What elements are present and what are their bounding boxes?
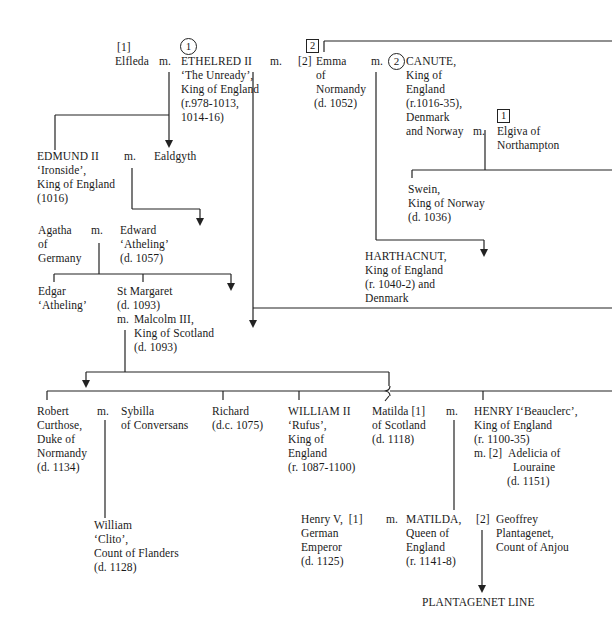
marriage-marker: m. <box>473 125 485 139</box>
name-line: Queen of <box>406 527 449 541</box>
name-line: of <box>316 69 326 83</box>
name-line: Agatha <box>38 224 72 238</box>
plantagenet-line-label: PLANTAGENET LINE <box>422 596 535 610</box>
name-line: King of <box>288 433 324 447</box>
marriage-marker: m. <box>371 55 383 69</box>
name-line: King of England <box>181 83 259 97</box>
name-line: Elgiva of <box>497 125 540 139</box>
name-line: of <box>38 238 48 252</box>
name-line: Henry V, [1] <box>301 513 363 527</box>
name-line: Denmark <box>406 111 450 125</box>
name-line: Adelicia of <box>508 447 561 461</box>
name-line: (d. 1093) <box>134 341 177 355</box>
name-line: (d. 1093) <box>117 299 160 313</box>
name-line: St Margaret <box>117 285 173 299</box>
name-line: (d. 1036) <box>408 211 451 225</box>
marriage-marker: m. <box>159 55 171 69</box>
marriage-marker: m. <box>386 513 398 527</box>
name-line: of Scotland <box>372 419 426 433</box>
name-line: King of Norway <box>408 197 485 211</box>
name-line: (1016) <box>37 192 68 206</box>
name-line: (r. 1040-2) and <box>365 278 435 292</box>
name-line: Plantagenet, <box>496 527 554 541</box>
name-line: Count of Anjou <box>496 541 569 555</box>
name-line: (r. 1087-1100) <box>288 461 355 475</box>
name-line: Edgar <box>38 285 66 299</box>
name-line: Sybilla <box>121 405 154 419</box>
name-line: (r. 1100-35) <box>474 433 530 447</box>
name-line: Matilda [1] <box>372 405 425 419</box>
name-line: Germany <box>38 252 82 266</box>
name-line: Richard <box>212 405 249 419</box>
marriage-marker: m. <box>117 313 129 327</box>
name-line: Normandy <box>37 447 87 461</box>
name-line: and Norway <box>406 125 464 139</box>
name-line: Geoffrey <box>496 513 538 527</box>
name-line: England <box>288 447 327 461</box>
name-line: Emperor <box>301 541 342 555</box>
name-line: King of England <box>365 264 443 278</box>
elfleda-name: Elfleda <box>115 55 149 69</box>
marriage-marker: m. <box>270 55 282 69</box>
name-line: WILLIAM II <box>288 405 351 419</box>
emma-marker: [2] <box>298 55 312 69</box>
elfleda-marker: [1] <box>117 41 131 55</box>
name-line: (d. 1134) <box>37 461 80 475</box>
marriage-marker: m. <box>124 150 136 164</box>
name-line: Louraine <box>513 461 555 475</box>
name-line: (d. 1125) <box>301 555 344 569</box>
name-line: (d. 1118) <box>372 433 414 447</box>
name-line: Robert <box>37 405 69 419</box>
name-line: ‘The Unready’, <box>181 69 253 83</box>
name-line: HARTHACNUT, <box>365 250 447 264</box>
name-line: (r.1016-35), <box>406 97 462 111</box>
name-line: (d. 1151) <box>507 475 550 489</box>
circle-number-icon: 1 <box>180 38 197 55</box>
name-line: Normandy <box>316 83 366 97</box>
name-line: Duke of <box>37 433 75 447</box>
name-line: (r.978-1013, <box>181 97 239 111</box>
name-line: (d. 1128) <box>94 561 137 575</box>
name-line: ‘Ironside’, <box>37 164 86 178</box>
name-line: Swein, <box>408 183 440 197</box>
circle-number-icon: 2 <box>388 53 405 70</box>
name-line: King of <box>406 69 442 83</box>
name-line: King of England <box>37 178 115 192</box>
marriage-marker: m. <box>97 405 109 419</box>
name-line: King of England <box>474 419 552 433</box>
box-number-icon: 2 <box>306 39 319 53</box>
name-line: HENRY I‘Beauclerc’, <box>474 405 578 419</box>
name-line: (d. 1057) <box>120 252 163 266</box>
name-line: (d. 1052) <box>314 97 357 111</box>
name-line: German <box>301 527 339 541</box>
name-line: (d.c. 1075) <box>212 419 263 433</box>
name-line: 1014-16) <box>181 111 224 125</box>
name-line: Curthose, <box>37 419 82 433</box>
name-line: Emma <box>316 55 346 69</box>
marriage-marker: m. <box>91 224 103 238</box>
name-line: Malcolm III, <box>134 313 194 327</box>
marriage-marker: m. <box>446 405 458 419</box>
name-line: Edward <box>120 224 156 238</box>
name-line: ‘Clito’, <box>94 533 128 547</box>
person-ealdgyth[interactable]: Ealdgyth <box>154 150 196 164</box>
name-line: Northampton <box>497 139 559 153</box>
name-line: (r. 1141-8) <box>406 555 456 569</box>
box-number-icon: 1 <box>497 109 510 123</box>
name-line: William <box>94 519 132 533</box>
name-line: King of Scotland <box>134 327 214 341</box>
name-line: ‘Rufus’, <box>288 419 327 433</box>
name-line: Count of Flanders <box>94 547 179 561</box>
name-line: ‘Atheling’ <box>120 238 169 252</box>
name-line: England <box>406 83 445 97</box>
name-line: ETHELRED II <box>181 55 252 69</box>
name-line: Denmark <box>365 292 409 306</box>
marriage-marker: m. [2] <box>474 447 502 461</box>
name-line: England <box>406 541 445 555</box>
name-line: ‘Atheling’ <box>38 299 87 313</box>
name-line: of Conversans <box>121 419 188 433</box>
name-line: MATILDA, <box>406 513 461 527</box>
geoffrey-marker: [2] <box>476 513 490 527</box>
name-line: CANUTE, <box>406 55 456 69</box>
name-line: EDMUND II <box>37 150 99 164</box>
